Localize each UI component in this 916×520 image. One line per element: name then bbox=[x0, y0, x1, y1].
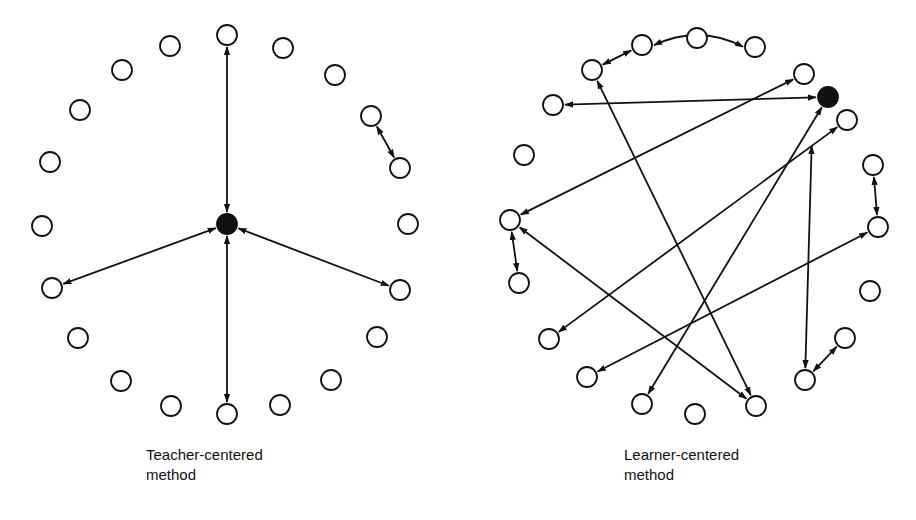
communication-arrow bbox=[874, 177, 877, 215]
learner-node bbox=[270, 395, 290, 415]
learner-node bbox=[746, 396, 766, 416]
learner-node bbox=[500, 210, 520, 230]
teacher-node bbox=[818, 87, 838, 107]
communication-arrow bbox=[238, 228, 389, 285]
learner-node bbox=[111, 371, 131, 391]
caption-line-1: Teacher-centered bbox=[146, 445, 263, 465]
teacher-centered-caption: Teacher-centered method bbox=[146, 445, 263, 485]
caption-line-1: Learner-centered bbox=[624, 445, 739, 465]
diagram-canvas bbox=[0, 0, 916, 520]
learner-node bbox=[273, 38, 293, 58]
learner-node bbox=[543, 95, 563, 115]
learner-node bbox=[70, 100, 90, 120]
caption-line-2: method bbox=[146, 465, 263, 485]
communication-arrow bbox=[648, 107, 822, 393]
communication-arrow bbox=[512, 232, 518, 271]
learner-node bbox=[160, 36, 180, 56]
communication-arrow bbox=[805, 146, 811, 368]
learner-node bbox=[539, 329, 559, 349]
communication-arrow bbox=[565, 97, 816, 104]
learner-node bbox=[745, 37, 765, 57]
learner-node bbox=[217, 25, 237, 45]
learner-node bbox=[632, 35, 652, 55]
learner-node bbox=[837, 110, 857, 130]
learner-node bbox=[795, 370, 815, 390]
learner-node bbox=[632, 394, 652, 414]
teacher-centered-diagram bbox=[32, 25, 418, 424]
communication-arrow bbox=[597, 81, 750, 395]
learner-node bbox=[361, 106, 381, 126]
learner-centered-diagram bbox=[500, 28, 888, 424]
learner-node bbox=[40, 152, 60, 172]
learner-node bbox=[582, 60, 602, 80]
communication-arrow bbox=[377, 126, 394, 157]
learner-node bbox=[577, 367, 597, 387]
learner-node bbox=[860, 281, 880, 301]
learner-node bbox=[161, 396, 181, 416]
learner-node bbox=[321, 370, 341, 390]
communication-arrow bbox=[603, 50, 632, 64]
learner-node bbox=[398, 214, 418, 234]
learner-node bbox=[863, 155, 883, 175]
communication-arrow bbox=[813, 347, 836, 372]
learner-node bbox=[32, 216, 52, 236]
communication-arrow bbox=[63, 228, 215, 284]
learner-node bbox=[509, 273, 529, 293]
learner-node bbox=[868, 217, 888, 237]
learner-node bbox=[367, 327, 387, 347]
learner-node bbox=[685, 404, 705, 424]
caption-line-2: method bbox=[624, 465, 739, 485]
learner-node bbox=[42, 278, 62, 298]
communication-arrow bbox=[559, 127, 838, 332]
learner-node bbox=[68, 328, 88, 348]
learner-node bbox=[390, 158, 410, 178]
learner-node bbox=[835, 328, 855, 348]
learner-node bbox=[112, 60, 132, 80]
learner-node bbox=[794, 64, 814, 84]
learner-node bbox=[687, 28, 707, 48]
learner-node bbox=[390, 280, 410, 300]
learner-node bbox=[514, 145, 534, 165]
learner-centered-caption: Learner-centered method bbox=[624, 445, 739, 485]
learner-node bbox=[217, 404, 237, 424]
teacher-node bbox=[217, 214, 237, 234]
learner-node bbox=[325, 65, 345, 85]
